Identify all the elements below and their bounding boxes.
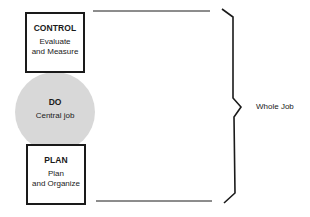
curly-brace-icon bbox=[222, 9, 241, 203]
plan-title: PLAN bbox=[28, 155, 84, 165]
do-title: DO bbox=[15, 97, 95, 107]
control-subtitle-line-1: Evaluate bbox=[27, 37, 83, 47]
plan-subtitle-line-2: and Organize bbox=[28, 179, 84, 189]
control-subtitle-line-2: and Measure bbox=[27, 47, 83, 57]
do-subtitle: Central job bbox=[15, 111, 95, 120]
plan-subtitle-line-1: Plan bbox=[28, 169, 84, 179]
whole-job-label: Whole Job bbox=[256, 102, 294, 111]
control-title: CONTROL bbox=[27, 23, 83, 33]
plan-box: PLAN Plan and Organize bbox=[26, 144, 86, 205]
control-box: CONTROL Evaluate and Measure bbox=[25, 12, 85, 73]
diagram-canvas: DO Central job CONTROL Evaluate and Meas… bbox=[0, 0, 310, 217]
